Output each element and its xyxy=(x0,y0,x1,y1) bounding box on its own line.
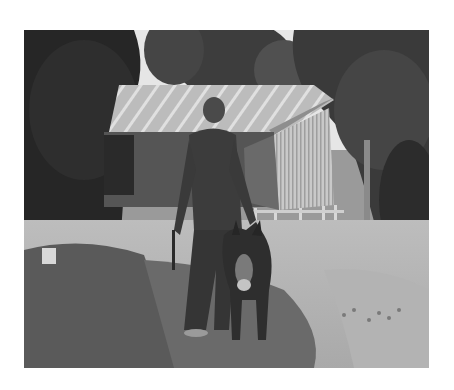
photo-scene xyxy=(24,30,429,368)
photograph: Black-and-white photograph of an elderly… xyxy=(24,30,429,368)
